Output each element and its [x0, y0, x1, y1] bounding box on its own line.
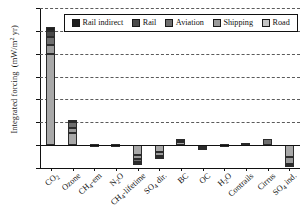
x-tick-mark — [268, 168, 269, 171]
bar-segment — [198, 148, 207, 150]
bar-segment — [133, 163, 142, 165]
bar-segment — [285, 145, 294, 157]
gridline — [40, 77, 300, 78]
chart-figure: Integrated forcing (mW/m2 yr) 6005004003… — [0, 0, 308, 211]
y-tick-mark — [36, 31, 40, 32]
x-tick-mark — [73, 168, 74, 171]
bar-segment — [155, 157, 164, 159]
bar-stack — [111, 8, 120, 168]
legend-swatch-icon — [165, 19, 173, 27]
bar-segment — [68, 128, 77, 133]
y-tick-mark — [36, 122, 40, 123]
legend-swatch-icon — [132, 19, 140, 27]
legend-item[interactable]: Aviation — [165, 19, 204, 27]
legend-label: Road — [272, 19, 289, 27]
gridline — [40, 8, 300, 9]
y-axis-title: Integrated forcing (mW/m2 yr) — [9, 0, 20, 159]
x-tick-mark — [224, 168, 225, 171]
chart-legend: Rail indirectRailAviationShippingRoad — [64, 14, 298, 32]
bar-stack — [68, 8, 77, 168]
legend-swatch-icon — [72, 19, 80, 27]
bar-stack — [285, 8, 294, 168]
y-tick-mark — [36, 99, 40, 100]
legend-item[interactable]: Rail — [132, 19, 156, 27]
x-tick-mark — [246, 168, 247, 171]
legend-swatch-icon — [262, 19, 270, 27]
bar-stack — [263, 8, 272, 168]
legend-item[interactable]: Road — [262, 19, 290, 27]
x-axis-line — [40, 168, 300, 169]
plot-area: 6005004003002001000-100 — [40, 8, 300, 168]
gridline — [40, 99, 300, 100]
x-tick-mark — [203, 168, 204, 171]
x-tick-mark — [289, 168, 290, 171]
y-tick-mark — [36, 8, 40, 9]
x-tick-mark — [51, 168, 52, 171]
legend-label: Shipping — [223, 19, 253, 27]
legend-label: Rail — [143, 19, 157, 27]
bar-segment — [46, 31, 55, 37]
x-tick-mark — [181, 168, 182, 171]
zero-line — [40, 145, 300, 146]
x-tick-mark — [138, 168, 139, 171]
bar-stack — [220, 8, 229, 168]
y-axis-line — [40, 8, 41, 168]
gridline — [40, 54, 300, 55]
bar-segment — [46, 45, 55, 54]
bar-segment — [133, 145, 142, 155]
legend-item[interactable]: Rail indirect — [72, 19, 123, 27]
bar-stack — [198, 8, 207, 168]
bar-segment — [155, 145, 164, 152]
legend-label: Aviation — [176, 19, 204, 27]
gridline — [40, 122, 300, 123]
bar-stack — [155, 8, 164, 168]
bar-stack — [176, 8, 185, 168]
legend-label: Rail indirect — [83, 19, 124, 27]
x-tick-mark — [94, 168, 95, 171]
x-tick-mark — [159, 168, 160, 171]
bar-stack — [46, 8, 55, 168]
bar-segment — [46, 27, 55, 30]
bar-segment — [46, 54, 55, 145]
bar-stack — [133, 8, 142, 168]
bar-stack — [241, 8, 250, 168]
legend-item[interactable]: Shipping — [213, 19, 253, 27]
y-tick-mark — [36, 168, 40, 169]
bar-segment — [285, 165, 294, 167]
x-tick-mark — [116, 168, 117, 171]
bar-segment — [285, 157, 294, 164]
y-tick-mark — [36, 77, 40, 78]
legend-swatch-icon — [213, 19, 221, 27]
bar-segment — [176, 139, 185, 141]
bar-stack — [90, 8, 99, 168]
bar-segment — [68, 133, 77, 146]
bar-segment — [68, 120, 77, 122]
bar-segment — [46, 37, 55, 45]
y-tick-mark — [36, 54, 40, 55]
